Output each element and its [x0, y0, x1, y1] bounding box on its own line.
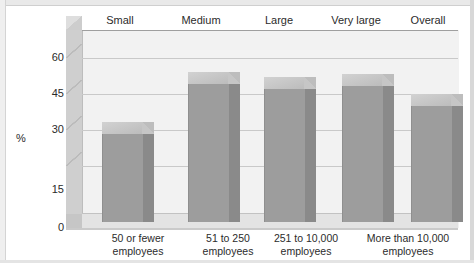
y-tick-60: 60 — [38, 52, 64, 63]
group-header-medium: Medium — [158, 10, 244, 30]
gridline-60 — [82, 58, 458, 59]
bar-overall[interactable] — [411, 94, 451, 222]
gridline-bevel-45 — [66, 80, 82, 94]
gridline-bevel-60 — [66, 44, 82, 58]
bar-small[interactable] — [102, 122, 142, 222]
y-tick-0: 0 — [38, 222, 64, 233]
bar-side-face — [304, 89, 316, 222]
plot-floor-front-edge — [66, 228, 458, 230]
bar-front-face — [342, 86, 383, 222]
bar-top-bevel — [228, 72, 240, 84]
y-tick-15: 15 — [38, 184, 64, 195]
bar-front-face — [188, 84, 229, 222]
bar-front-face — [264, 89, 305, 222]
x-label-line2: employees — [88, 245, 188, 258]
bar-very-large[interactable] — [342, 74, 382, 222]
bar-top-face — [102, 122, 142, 134]
bar-top-face — [264, 77, 304, 89]
x-label-line1: More than 10,000 — [344, 232, 472, 245]
chart-figure: Small Medium Large Very large Overall 60… — [0, 0, 474, 263]
group-header-small: Small — [82, 10, 158, 30]
group-header-band: Small Medium Large Very large Overall — [82, 10, 458, 30]
y-axis-title: % — [16, 132, 26, 144]
group-header-rule — [82, 30, 458, 31]
bar-top-bevel — [382, 74, 394, 86]
x-label-line1: 50 or fewer — [88, 232, 188, 245]
group-header-overall: Overall — [398, 10, 458, 30]
bar-front-face — [102, 134, 143, 222]
bar-front-face — [411, 106, 452, 222]
group-header-very-large: Very large — [314, 10, 398, 30]
x-axis: 50 or fewer employees 51 to 250 employee… — [66, 232, 458, 263]
bar-large[interactable] — [264, 77, 304, 222]
bar-top-face — [188, 72, 228, 84]
plot-top-bevel — [66, 16, 82, 30]
bar-top-face — [411, 94, 451, 106]
bar-top-bevel — [451, 94, 463, 106]
plot-left-panel-base — [66, 214, 82, 228]
x-label-very-large: More than 10,000 employees — [344, 232, 472, 258]
group-header-large: Large — [244, 10, 314, 30]
gridline-bevel-30 — [66, 116, 82, 130]
bar-side-face — [228, 84, 240, 222]
bar-chart: Small Medium Large Very large Overall 60… — [6, 6, 468, 260]
bar-medium[interactable] — [188, 72, 228, 222]
y-axis: 60 45 30 15 0 — [30, 6, 64, 260]
figure-border-right — [470, 0, 474, 263]
y-tick-30: 30 — [38, 124, 64, 135]
x-label-line2: employees — [344, 245, 472, 258]
gridline-bevel-15 — [66, 152, 82, 166]
bar-top-face — [342, 74, 382, 86]
y-tick-45: 45 — [38, 88, 64, 99]
bar-top-bevel — [142, 122, 154, 134]
x-label-small: 50 or fewer employees — [88, 232, 188, 258]
bar-side-face — [142, 134, 154, 222]
bar-side-face — [382, 86, 394, 222]
bar-side-face — [451, 106, 463, 222]
bar-top-bevel — [304, 77, 316, 89]
